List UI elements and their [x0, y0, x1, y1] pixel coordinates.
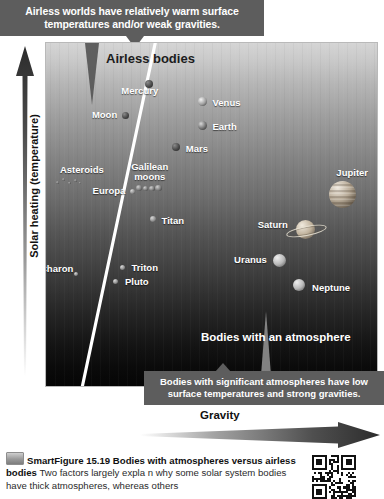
body-label-charon: Charon [45, 263, 73, 274]
body-jupiter [329, 181, 356, 208]
scatter-plot-area: Airless bodies Bodies with an atmosphere… [45, 42, 378, 387]
body-galilean-moons [136, 184, 164, 192]
body-label-uranus: Uranus [234, 254, 267, 265]
body-label-galilean-moons: Galileanmoons [131, 162, 168, 182]
caption-title: SmartFigure 15.19 [27, 455, 110, 466]
smartfigure-thumbnail-icon [6, 452, 24, 465]
body-pluto [113, 279, 118, 284]
x-axis-label: Gravity [200, 409, 240, 421]
figure-caption: SmartFigure 15.19 Bodies with atmosphere… [6, 452, 298, 492]
top-callout-pointer [85, 43, 99, 105]
body-label-moon: Moon [92, 109, 117, 120]
body-label-saturn: Saturn [258, 219, 288, 230]
body-uranus [273, 254, 286, 267]
body-label-mars: Mars [186, 143, 208, 154]
bottom-callout-box: Bodies with significant atmospheres have… [144, 371, 384, 405]
zone-label-atmosphere: Bodies with an atmosphere [201, 331, 351, 343]
x-axis-arrow [140, 422, 380, 448]
body-earth [198, 121, 207, 130]
body-titan [150, 216, 156, 222]
body-label-titan: Titan [162, 215, 185, 226]
body-label-europa: Europa [93, 185, 126, 196]
body-label-asteroids: Asteroids [60, 164, 104, 175]
body-saturn [296, 220, 315, 239]
body-venus [198, 97, 207, 106]
caption-body: Two factors largely expla n why some sol… [6, 467, 286, 490]
body-europa [130, 189, 135, 194]
body-mars [172, 143, 180, 151]
body-label-mercury: Mercury [121, 85, 158, 96]
body-charon [74, 272, 78, 276]
body-label-neptune: Neptune [312, 282, 350, 293]
body-neptune [293, 279, 305, 291]
body-asteroids [56, 177, 82, 187]
body-label-venus: Venus [213, 97, 241, 108]
zone-label-airless: Airless bodies [106, 51, 195, 66]
y-axis-label: Solar heating (temperature) [28, 106, 40, 266]
body-label-triton: Triton [132, 262, 158, 273]
body-moon [122, 112, 129, 119]
body-label-earth: Earth [213, 121, 237, 132]
qr-code[interactable] [312, 455, 356, 499]
bottom-callout-text: Bodies with significant atmospheres have… [148, 376, 380, 400]
top-callout-text: Airless worlds have relatively warm surf… [4, 5, 260, 31]
body-label-jupiter: Jupiter [336, 167, 368, 178]
body-label-pluto: Pluto [125, 276, 149, 287]
body-triton [120, 265, 125, 270]
top-callout-box: Airless worlds have relatively warm surf… [0, 0, 264, 36]
